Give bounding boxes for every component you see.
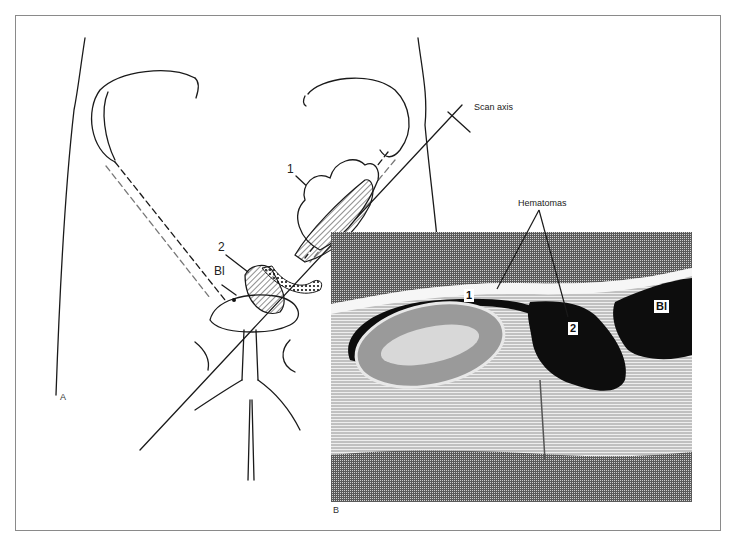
- hematoma-1-marker: 1: [464, 289, 474, 302]
- panel-letter-b: B: [333, 505, 339, 515]
- bladder-marker: Bl: [654, 300, 669, 313]
- panel-b-scan: [0, 0, 737, 540]
- hematoma-2-marker: 2: [568, 322, 578, 335]
